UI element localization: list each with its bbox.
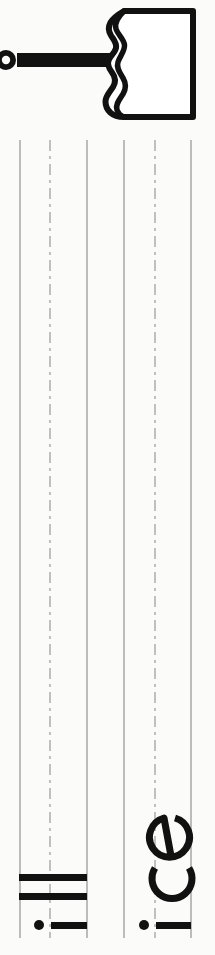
popsicle-stick-tip-inner — [2, 56, 10, 64]
word-group-ice-label: ice — [0, 780, 1, 781]
popsicle-illustration: popsicle — [0, 0, 215, 132]
i-stroke-1 — [19, 874, 87, 881]
practice-group-iii-label: iii — [0, 780, 1, 781]
letter-i-stem — [156, 922, 191, 929]
popsicle-stick-shaft — [17, 53, 112, 67]
popsicle-icon: popsicle — [0, 0, 215, 132]
letter-e — [144, 808, 200, 864]
i-stroke-3 — [51, 922, 87, 929]
popsicle-stick-group — [0, 50, 112, 70]
letter-e-path — [150, 818, 190, 857]
letter-e-group — [150, 818, 190, 857]
popsicle-bar-group — [106, 11, 194, 117]
letter-i-dot — [139, 920, 149, 930]
letter-c-path — [152, 868, 192, 899]
worksheet-page: popsicle iii ice — [0, 0, 215, 955]
handwriting-layer: iii ice — [0, 780, 215, 955]
letter-c — [146, 860, 198, 912]
i-dot-1 — [34, 920, 44, 930]
i-stroke-2 — [19, 893, 87, 900]
